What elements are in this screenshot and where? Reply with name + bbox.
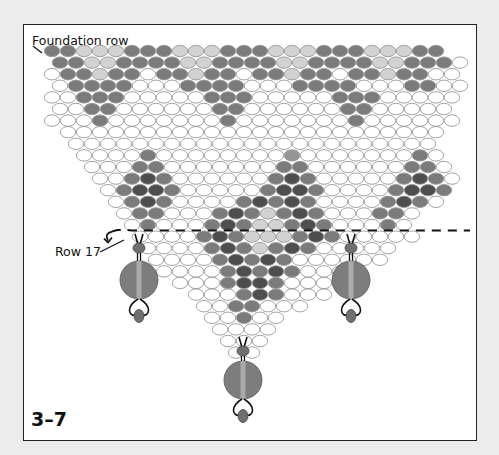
bead [204, 289, 219, 300]
bead [428, 196, 443, 207]
bead [108, 92, 123, 103]
beadwork-diagram [0, 0, 499, 455]
row-17-leader-line [100, 240, 124, 252]
bead [332, 127, 347, 138]
bead [124, 92, 139, 103]
bead [332, 196, 347, 207]
bead-hole [137, 261, 142, 299]
bead [156, 45, 171, 56]
bead [140, 196, 155, 207]
bead [108, 196, 123, 207]
bead [276, 80, 291, 91]
bead [84, 57, 99, 68]
bead [316, 243, 331, 254]
bead [396, 196, 411, 207]
bead [292, 254, 307, 265]
bead [236, 69, 251, 80]
bead [284, 289, 299, 300]
bead [308, 208, 323, 219]
bead [228, 138, 243, 149]
bead [308, 57, 323, 68]
bead [372, 231, 387, 242]
bead [428, 115, 443, 126]
bead [236, 150, 251, 161]
bead [292, 231, 307, 242]
bead [388, 185, 403, 196]
bead [308, 254, 323, 265]
bead [316, 92, 331, 103]
bead [92, 92, 107, 103]
bead [364, 127, 379, 138]
bead [292, 80, 307, 91]
bead [380, 92, 395, 103]
bead [236, 312, 251, 323]
bead [92, 69, 107, 80]
bead [204, 115, 219, 126]
bead [76, 127, 91, 138]
bead [372, 185, 387, 196]
bead [348, 196, 363, 207]
bead [428, 173, 443, 184]
bead [300, 150, 315, 161]
bead [244, 208, 259, 219]
bead [148, 208, 163, 219]
bead [268, 243, 283, 254]
end-bead [238, 410, 248, 423]
bead [228, 301, 243, 312]
bead [268, 277, 283, 288]
bead [124, 196, 139, 207]
bead [332, 115, 347, 126]
bead [188, 289, 203, 300]
bead [412, 69, 427, 80]
bead [300, 69, 315, 80]
bead [436, 80, 451, 91]
bead [412, 92, 427, 103]
bead [68, 57, 83, 68]
bead [284, 69, 299, 80]
bead [116, 138, 131, 149]
bead [172, 219, 187, 230]
bead [92, 115, 107, 126]
bead [316, 266, 331, 277]
bead [132, 185, 147, 196]
bead [292, 185, 307, 196]
bead [420, 57, 435, 68]
bead [108, 69, 123, 80]
bead [204, 312, 219, 323]
bead [268, 92, 283, 103]
bead [412, 45, 427, 56]
bead [356, 161, 371, 172]
bead [452, 57, 467, 68]
bead [196, 57, 211, 68]
bead [252, 45, 267, 56]
bead [388, 80, 403, 91]
bead [292, 301, 307, 312]
bead [436, 103, 451, 114]
bead [228, 161, 243, 172]
bead [212, 57, 227, 68]
bead [252, 115, 267, 126]
bead [332, 45, 347, 56]
bead [284, 150, 299, 161]
bead [236, 173, 251, 184]
bead [180, 185, 195, 196]
bead [196, 208, 211, 219]
bead-hole [241, 361, 246, 399]
bead [220, 312, 235, 323]
bead [156, 173, 171, 184]
bead [140, 92, 155, 103]
bead [236, 219, 251, 230]
bead [292, 208, 307, 219]
bead [124, 69, 139, 80]
bead [356, 80, 371, 91]
bead [348, 173, 363, 184]
bead [220, 266, 235, 277]
bead [180, 161, 195, 172]
bead [396, 219, 411, 230]
bead [324, 185, 339, 196]
bead [332, 219, 347, 230]
bead [220, 243, 235, 254]
bead [276, 161, 291, 172]
bead [124, 219, 139, 230]
bead [204, 266, 219, 277]
